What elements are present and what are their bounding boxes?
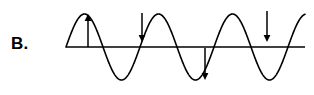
arrow-2-down-icon <box>139 13 146 42</box>
arrow-head <box>264 35 271 42</box>
arrow-head <box>139 35 146 42</box>
wave-figure: B. <box>0 0 314 95</box>
arrow-head <box>202 73 209 80</box>
arrow-1-up-icon <box>85 14 92 47</box>
wave-diagram-svg <box>0 0 314 95</box>
arrow-4-down-icon <box>264 11 271 42</box>
